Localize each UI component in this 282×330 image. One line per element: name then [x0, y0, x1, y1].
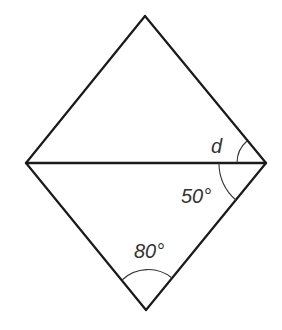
label-angle-80: 80° [134, 240, 164, 262]
label-angle-50: 50° [181, 185, 211, 207]
label-angle-d: d [211, 135, 223, 157]
geometry-diagram: d 50° 80° [0, 0, 282, 330]
diagram-svg: d 50° 80° [0, 0, 282, 330]
angle-arc-80 [122, 270, 172, 280]
edge-left-top [26, 16, 145, 163]
angle-arc-d [237, 141, 247, 163]
edge-left-bottom [26, 163, 146, 310]
edge-top-right [145, 16, 266, 163]
angle-arc-50 [219, 163, 236, 200]
